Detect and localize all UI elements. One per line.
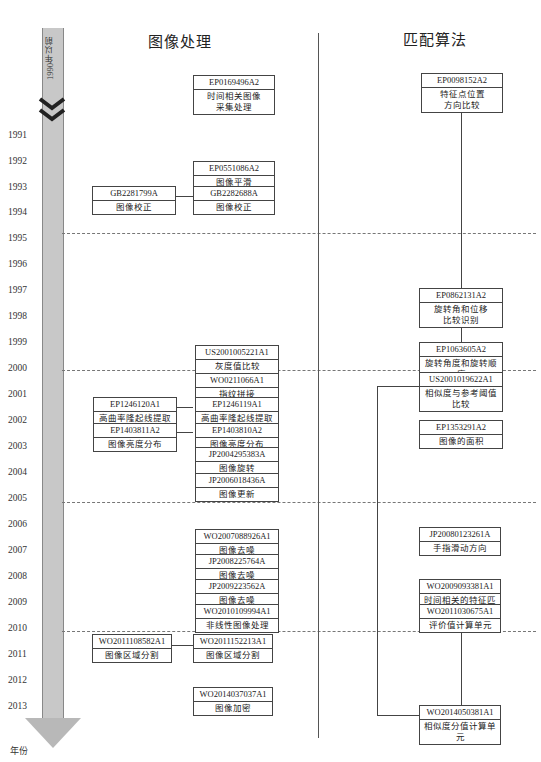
year-label: 2013 [8, 701, 38, 711]
patent-desc: 相似度分值计算单元 [420, 720, 500, 744]
year-label: 2009 [8, 597, 38, 607]
patent-desc: 图像区域分割 [194, 649, 272, 662]
chevron-down-icon [38, 108, 66, 122]
year-label: 1994 [8, 207, 38, 217]
patent-id: EP1403811A2 [94, 424, 176, 438]
patent-id: WO2007088926A1 [196, 530, 278, 544]
patent-desc: 图像区域分割 [93, 649, 171, 662]
patent-box-matching[interactable]: EP0098152A2特征点位置 方向比较 [421, 73, 503, 113]
patent-id: WO2011152213A1 [194, 635, 272, 649]
year-label: 2002 [8, 415, 38, 425]
connector-line [170, 645, 193, 646]
year-label: 1995 [8, 233, 38, 243]
timeline-arrow-shaft [42, 28, 64, 718]
connector-line [377, 386, 378, 716]
patent-desc: 手指滑动方向 [420, 542, 500, 555]
patent-desc: 图像的面积 [420, 435, 502, 448]
patent-id: WO2011108582A1 [93, 635, 171, 649]
patent-id: JP2008225764A [196, 555, 278, 569]
patent-desc: 旋转角和位移 比较识别 [420, 303, 502, 327]
connector-line [175, 196, 193, 197]
year-label: 1999 [8, 337, 38, 347]
patent-box-image[interactable]: GB2282688A图像校正 [193, 186, 275, 215]
patent-desc: 时间相关图像 采集处理 [194, 90, 274, 114]
patent-id: JP20080123261A [420, 528, 500, 542]
patent-box-matching[interactable]: WO2011030675A1评价值计算单元 [419, 604, 501, 633]
patent-box-matching[interactable]: US2001019622A1相似度与参考阈值比较 [419, 372, 503, 412]
patent-box-matching[interactable]: JP20080123261A手指滑动方向 [419, 527, 501, 556]
patent-box-matching[interactable]: EP1353291A2图像的面积 [419, 420, 503, 449]
patent-id: JP2009223562A [196, 580, 278, 594]
patent-desc: 图像校正 [93, 201, 175, 214]
patent-desc: 评价值计算单元 [420, 619, 500, 632]
year-label: 2006 [8, 519, 38, 529]
patent-desc: 非线性图像处理 [196, 619, 278, 632]
patent-desc: 图像校正 [194, 201, 274, 214]
patent-id: EP1246120A1 [94, 398, 176, 412]
era-divider [62, 233, 536, 234]
patent-box-image[interactable]: WO2014037037A1图像加密 [193, 687, 273, 716]
patent-box-image[interactable]: WO2011152213A1图像区域分割 [193, 634, 273, 663]
patent-desc: 图像加密 [194, 702, 272, 715]
patent-box-matching[interactable]: EP0862131A2旋转角和位移 比较识别 [419, 288, 503, 328]
year-label: 2007 [8, 545, 38, 555]
patent-id: EP1353291A2 [420, 421, 502, 435]
patent-box-image[interactable]: JP2004295383A图像旋转 [195, 447, 279, 476]
column-title-matching-algorithm: 匹配算法 [403, 28, 467, 49]
year-label: 1992 [8, 156, 38, 166]
patent-id: WO2014050381A1 [420, 706, 500, 720]
year-label: 2001 [8, 389, 38, 399]
timeline-arrow-head [25, 718, 81, 748]
year-label: 2004 [8, 467, 38, 477]
patent-desc: 特征点位置 方向比较 [422, 88, 502, 112]
patent-id: US2001005221A1 [196, 346, 278, 360]
year-label: 1996 [8, 259, 38, 269]
patent-id: EP1063605A2 [420, 343, 502, 357]
patent-box-image[interactable]: EP1403811A2图像亮度分布 [93, 423, 177, 452]
column-divider [318, 33, 319, 738]
year-label: 1998 [8, 311, 38, 321]
patent-id: EP0551086A2 [194, 162, 274, 176]
patent-desc: 灰度值比较 [196, 360, 278, 373]
year-label: 2008 [8, 571, 38, 581]
patent-box-image[interactable]: GB2281799A图像校正 [92, 186, 176, 215]
patent-box-image[interactable]: JP2006018436A图像更新 [195, 473, 279, 502]
patent-id: WO2014037037A1 [194, 688, 272, 702]
patent-id: WO2011030675A1 [420, 605, 500, 619]
patent-id: WO0211066A1 [196, 374, 278, 388]
patent-id: JP2006018436A [196, 474, 278, 488]
year-label: 1993 [8, 182, 38, 192]
patent-desc: 相似度与参考阈值比较 [420, 387, 502, 411]
patent-box-image[interactable]: EP0169496A2时间相关图像 采集处理 [193, 75, 275, 115]
patent-id: EP0862131A2 [420, 289, 502, 303]
connector-line [175, 407, 193, 408]
connector-line [377, 386, 419, 387]
axis-label-year: 年份 [10, 744, 28, 757]
patent-id: WO2009093381A1 [420, 580, 500, 594]
pre-1990-label: 1990年以前 [44, 36, 60, 80]
patent-box-image[interactable]: WO2011108582A1图像区域分割 [92, 634, 172, 663]
patent-box-matching[interactable]: WO2014050381A1相似度分值计算单元 [419, 705, 501, 745]
year-label: 2010 [8, 623, 38, 633]
patent-box-image[interactable]: WO2010109994A1非线性图像处理 [195, 604, 279, 633]
patent-id: EP0169496A2 [194, 76, 274, 90]
patent-id: EP0098152A2 [422, 74, 502, 88]
patent-id: US2001019622A1 [420, 373, 502, 387]
column-title-image-processing: 图像处理 [148, 30, 212, 51]
patent-id: JP2004295383A [196, 448, 278, 462]
year-label: 2000 [8, 363, 38, 373]
connector-line [377, 715, 419, 716]
era-divider [62, 502, 536, 503]
patent-id: GB2281799A [93, 187, 175, 201]
patent-id: GB2282688A [194, 187, 274, 201]
patent-id: WO2010109994A1 [196, 605, 278, 619]
patent-box-image[interactable]: US2001005221A1灰度值比较 [195, 345, 279, 374]
year-label: 1997 [8, 285, 38, 295]
year-label: 1991 [8, 130, 38, 140]
year-label: 2003 [8, 441, 38, 451]
year-label: 2005 [8, 493, 38, 503]
connector-line [175, 432, 193, 433]
patent-id: EP1246119A1 [196, 398, 278, 412]
year-label: 2012 [8, 675, 38, 685]
patent-id: EP1403810A2 [196, 424, 278, 438]
